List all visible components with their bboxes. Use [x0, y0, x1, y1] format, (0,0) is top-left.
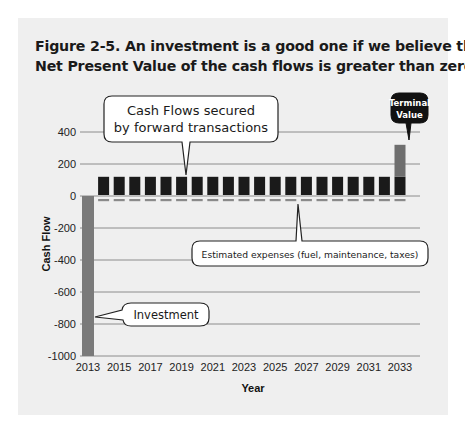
- cash-flow-bar: [254, 177, 265, 195]
- investment-callout: Investment: [95, 303, 209, 326]
- x-tick-label: 2013: [76, 361, 100, 373]
- expense-bar: [270, 199, 281, 201]
- cash-flow-bar: [192, 177, 203, 195]
- cash-flow-bar: [176, 177, 187, 195]
- cash-flow-bar: [285, 177, 296, 195]
- cash-flow-bar: [114, 177, 125, 195]
- y-tick-label: 200: [58, 158, 76, 170]
- expense-bar: [395, 199, 406, 201]
- cash-flow-bar: [145, 177, 156, 195]
- cash-flows-callout-line-2: by forward transactions: [114, 120, 268, 135]
- expense-bar: [129, 199, 140, 201]
- x-axis-ticks: 2013201520172019202120232025202720292031…: [76, 361, 412, 373]
- expense-bar: [207, 199, 218, 201]
- expense-bar: [145, 199, 156, 201]
- cash-flow-bar: [98, 177, 109, 195]
- expense-bar: [363, 199, 374, 201]
- x-tick-label: 2025: [263, 361, 287, 373]
- x-tick-label: 2031: [357, 361, 381, 373]
- investment-callout-text: Investment: [133, 308, 199, 322]
- terminal-value-line-2: Value: [396, 110, 423, 120]
- cash-flow-bar: [301, 177, 312, 195]
- expense-bar: [239, 199, 250, 201]
- expense-bar: [285, 199, 296, 201]
- expense-bar: [254, 199, 265, 201]
- cash-flow-bar: [363, 177, 374, 195]
- x-tick-label: 2023: [232, 361, 256, 373]
- x-tick-label: 2019: [169, 361, 193, 373]
- x-tick-label: 2033: [388, 361, 412, 373]
- expenses-callout: Estimated expenses (fuel, maintenance, t…: [192, 204, 428, 266]
- cash-flow-bar: [270, 177, 281, 195]
- cash-flow-bar: [317, 177, 328, 195]
- expenses-callout-text: Estimated expenses (fuel, maintenance, t…: [202, 249, 419, 260]
- x-tick-label: 2029: [325, 361, 349, 373]
- cash-flow-bar: [207, 177, 218, 195]
- cash-flow-bar: [129, 177, 140, 195]
- expense-bar: [192, 199, 203, 201]
- y-tick-label: -400: [54, 254, 76, 266]
- y-tick-label: 400: [58, 126, 76, 138]
- terminal-value-line-1: Terminal: [389, 98, 430, 108]
- y-axis-title: Cash Flow: [40, 216, 52, 271]
- x-tick-label: 2015: [107, 361, 131, 373]
- cash-flow-bar: [239, 177, 250, 195]
- x-tick-label: 2027: [294, 361, 318, 373]
- cash-flow-bar: [161, 177, 172, 195]
- expense-bar: [332, 199, 343, 201]
- cash-flow-chart: 4002000-200-400-600-800-1000 20132015201…: [0, 0, 465, 436]
- cash-flow-bar: [332, 177, 343, 195]
- expense-bar: [98, 199, 109, 201]
- y-tick-label: 0: [70, 190, 76, 202]
- y-tick-label: -200: [54, 222, 76, 234]
- expense-bar: [317, 199, 328, 201]
- expense-bar: [161, 199, 172, 201]
- y-tick-label: -600: [54, 286, 76, 298]
- expense-bar: [379, 199, 390, 201]
- y-tick-label: -1000: [48, 350, 76, 362]
- y-axis-ticks: 4002000-200-400-600-800-1000: [48, 126, 76, 362]
- cash-flow-bar: [223, 177, 234, 195]
- expense-bar: [301, 199, 312, 201]
- x-tick-label: 2017: [138, 361, 162, 373]
- terminal-value-callout: Terminal Value: [389, 93, 430, 140]
- cash-flow-bar: [348, 177, 359, 195]
- x-tick-label: 2021: [201, 361, 225, 373]
- x-axis-title: Year: [241, 382, 265, 394]
- expense-bar: [176, 199, 187, 201]
- expense-bar: [223, 199, 234, 201]
- cash-flow-bar: [379, 177, 390, 195]
- cash-flows-callout: Cash Flows secured by forward transactio…: [104, 96, 278, 175]
- cash-flows-callout-line-1: Cash Flows secured: [127, 103, 255, 118]
- cash-flow-bar: [395, 177, 406, 195]
- terminal-value-bar: [395, 145, 406, 177]
- y-tick-label: -800: [54, 318, 76, 330]
- expense-bar: [114, 199, 125, 201]
- expense-bar: [348, 199, 359, 201]
- investment-bar: [82, 196, 94, 356]
